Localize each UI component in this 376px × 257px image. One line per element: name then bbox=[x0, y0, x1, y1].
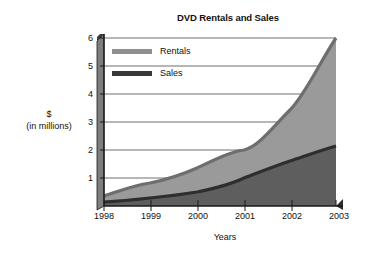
legend-label-sales: Sales bbox=[160, 68, 183, 78]
legend-swatch-sales bbox=[112, 71, 152, 76]
legend-label-rentals: Rentals bbox=[160, 46, 191, 56]
chart-container: DVD Rentals and Sales $ (in millions) Ye… bbox=[0, 0, 376, 257]
legend-item-rentals[interactable]: Rentals bbox=[112, 46, 191, 56]
plot-area bbox=[0, 0, 376, 257]
legend-item-sales[interactable]: Sales bbox=[112, 68, 183, 78]
legend-swatch-rentals bbox=[112, 49, 152, 54]
